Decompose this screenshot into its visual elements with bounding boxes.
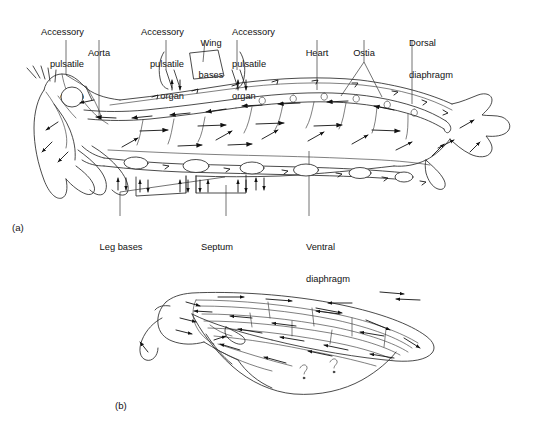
dorsal-diaphragm-chevrons (152, 80, 448, 115)
uncertain-flow-markers (300, 359, 337, 379)
leader-apo-1 (66, 40, 86, 87)
insect-body-outline (27, 66, 510, 198)
ostia-group (137, 93, 417, 145)
ganglion (124, 157, 148, 170)
hemolymph-flow-arrows-panel-a (42, 80, 480, 192)
insect-circulation-figure: Accessory pulsatile organ Aorta Accessor… (0, 0, 542, 435)
accessory-pulsatile-organs (86, 70, 246, 100)
leader-ostia-branch-2 (364, 62, 382, 97)
wing-veins (193, 300, 418, 371)
ganglion (395, 172, 413, 182)
ganglion (240, 162, 264, 174)
wing-outline (140, 292, 434, 394)
figure-artwork (0, 0, 542, 435)
dorsal-diaphragm (110, 80, 452, 115)
ganglion (294, 164, 319, 176)
leg-bases-and-septum (136, 175, 246, 196)
ganglion (183, 159, 209, 172)
dorsal-vessel-heart-aorta (84, 93, 451, 145)
ganglion (349, 168, 371, 179)
